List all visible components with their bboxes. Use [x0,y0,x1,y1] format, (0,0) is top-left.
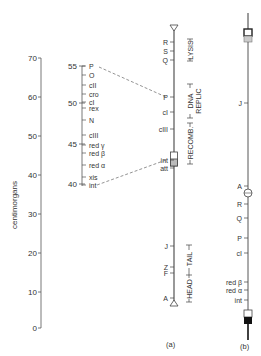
gene-label-red: red α [226,287,242,294]
function-lysis: LYSIS [186,39,194,61]
panel-a-bottom-end-triangle-icon [170,300,178,306]
gene-label-rex: rex [89,105,99,112]
gene-label-j: J [239,100,243,107]
gene-label-ciii: cIII [89,132,98,139]
gene-label-red: red β [89,150,105,158]
panel-a-physical-map: RSQPcIcIIIintattJZFA LYSIS DNA REPLIC RE… [159,25,202,349]
gene-label-ci: cI [237,250,243,257]
gene-label-int: int [161,157,168,164]
gene-label-q: Q [237,215,243,223]
gene-label-f: F [164,270,168,277]
scale-tick-label: 0 [33,324,38,333]
gene-label-cii: cII [89,82,96,89]
genetic-map-tick-label: 45 [68,140,77,149]
lambda-phage-map-diagram: 706050403020100 centimorgans 55504540 PO… [0,0,261,356]
panel-a-top-end-triangle-icon [170,25,178,31]
gene-label-p: P [237,235,242,242]
genetic-map-axis: 55504540 POcIIcrocIrexNcIIIred γred βred… [68,62,105,189]
panel-b-caption: (b) [240,342,250,351]
gene-label-red: red γ [89,142,105,150]
function-recomb: RECOMB. [186,123,194,164]
centimorgan-scale: 706050403020100 centimorgans [10,54,41,333]
connector-line-p [99,67,166,97]
function-label-head: HEAD [186,279,193,298]
gene-label-p: P [163,94,168,101]
panel-b-top-box [244,29,252,36]
panel-a-caption: (a) [166,340,176,349]
gene-label-red: red β [226,279,242,287]
gene-label-int: int [89,182,96,189]
function-label-dna: DNA [187,93,194,108]
panel-b-top-box-shaded [244,36,252,42]
connector-line-int [97,160,166,185]
gene-label-a: A [163,295,168,302]
function-label-recomb: RECOMB. [187,127,194,160]
function-label-lysis: LYSIS [187,40,194,60]
function-dna-replic: DNA REPLIC [186,84,202,118]
scale-axis-label: centimorgans [10,181,19,229]
gene-label-ci: cI [163,109,169,116]
function-label-replic: REPLIC [195,88,202,113]
gene-label-o: O [89,72,95,79]
scale-tick-label: 40 [28,171,37,180]
gene-label-n: N [89,117,94,124]
panel-b-bottom-box [244,310,252,317]
gene-label-int: int [235,297,242,304]
gene-label-xis: xis [89,174,98,181]
scale-tick-label: 30 [28,210,37,219]
gene-label-cro: cro [89,91,99,98]
gene-label-r: R [237,201,242,208]
gene-label-j: J [165,243,169,250]
function-tail: TAIL [185,245,193,275]
function-head: HEAD [185,275,193,302]
gene-label-a: A [237,183,242,190]
genetic-map-tick-label: 50 [68,99,77,108]
gene-label-att: att [160,165,168,172]
gene-label-r: R [163,39,168,46]
genetic-map-tick-label: 40 [68,180,77,189]
function-label-tail: TAIL [186,252,193,266]
gene-label-p: P [89,63,94,70]
genetic-map-tick-label: 55 [68,62,77,71]
scale-tick-label: 60 [28,93,37,102]
panel-b-bottom-box-filled [244,317,252,324]
gene-label-q: Q [163,57,169,65]
scale-tick-label: 10 [28,288,37,297]
scale-tick-label: 20 [28,249,37,258]
scale-tick-label: 70 [28,54,37,63]
gene-label-s: S [163,48,168,55]
scale-tick-label: 50 [28,132,37,141]
gene-label-ciii: cIII [159,126,168,133]
gene-label-red: red α [89,162,105,169]
panel-b-physical-map: JARQPcIred βred αint (b) [226,13,252,351]
